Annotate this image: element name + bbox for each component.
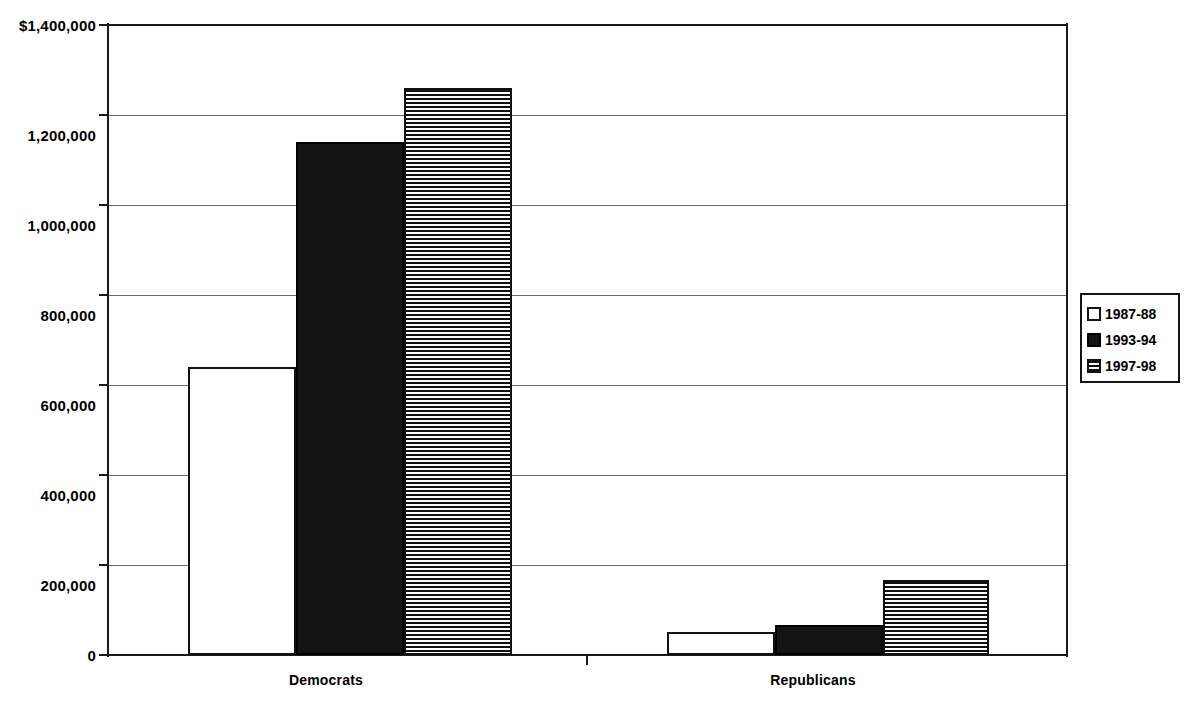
- bar-republicans-1997-98: [883, 580, 989, 655]
- legend-item-1987-88[interactable]: 1987-88: [1087, 301, 1174, 327]
- y-axis-tick-label: 200,000: [0, 578, 96, 593]
- bar-chart: $1,400,000 1,200,000 1,000,000 800,000 6…: [0, 0, 1186, 703]
- x-axis-category-divider: [586, 656, 588, 665]
- y-axis-tick-label: 600,000: [0, 398, 96, 413]
- bar-republicans-1987-88: [667, 632, 775, 655]
- gridline-1000000: [107, 205, 1068, 206]
- y-axis-tick-label: 400,000: [0, 488, 96, 503]
- legend-item-1997-98[interactable]: 1997-98: [1087, 353, 1174, 379]
- gridline-1400000: [107, 24, 1068, 26]
- y-axis-tick-label: 0: [0, 648, 96, 663]
- legend-item-label: 1997-98: [1105, 359, 1156, 373]
- legend-swatch-solid-square-icon: [1087, 333, 1101, 347]
- gridline-1200000: [107, 115, 1068, 116]
- x-axis-category-label-democrats: Democrats: [289, 673, 363, 687]
- bar-democrats-1997-98: [404, 88, 512, 655]
- legend-item-label: 1993-94: [1105, 333, 1156, 347]
- legend-item-1993-94[interactable]: 1993-94: [1087, 327, 1174, 353]
- bar-democrats-1993-94: [296, 142, 404, 655]
- y-axis-tick-label: $1,400,000: [0, 18, 96, 33]
- legend: 1987-88 1993-94 1997-98: [1080, 293, 1180, 383]
- bar-republicans-1993-94: [775, 625, 883, 655]
- y-axis-label-group: $1,400,000 1,200,000 1,000,000 800,000 6…: [0, 0, 96, 703]
- plot-right-border: [1066, 23, 1068, 657]
- y-axis-line: [107, 23, 109, 657]
- y-axis-tick-label: 1,000,000: [0, 218, 96, 233]
- legend-swatch-hollow-square-icon: [1087, 307, 1101, 321]
- y-axis-tick-label: 800,000: [0, 308, 96, 323]
- bar-democrats-1987-88: [188, 367, 296, 655]
- y-axis-tick-label: 1,200,000: [0, 128, 96, 143]
- x-axis-category-label-republicans: Republicans: [770, 673, 855, 687]
- gridline-800000: [107, 295, 1068, 296]
- legend-item-label: 1987-88: [1105, 307, 1156, 321]
- legend-swatch-striped-square-icon: [1087, 359, 1101, 373]
